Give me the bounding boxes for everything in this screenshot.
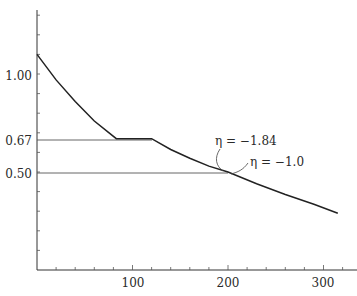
x-tick-label-100: 100 bbox=[122, 276, 145, 290]
annotation-arrow-eta-1.0 bbox=[231, 163, 248, 174]
y-tick-label-0.67: 0.67 bbox=[5, 134, 32, 148]
y-tick-label-1.00: 1.00 bbox=[5, 69, 32, 83]
y-tick-label-0.50: 0.50 bbox=[5, 167, 32, 181]
x-tick-label-300: 300 bbox=[312, 276, 335, 290]
x-tick-label-200: 200 bbox=[217, 276, 240, 290]
price-curve bbox=[37, 54, 338, 213]
annotation-arrow-eta-1.84 bbox=[216, 149, 223, 171]
annotation-eta-1.0: η = −1.0 bbox=[250, 155, 304, 169]
chart: 1.00 0.67 0.50 100 200 300 η = −1.84 η =… bbox=[0, 0, 357, 296]
annotation-eta-1.84: η = −1.84 bbox=[215, 134, 277, 148]
x-axis-ticks bbox=[56, 265, 343, 270]
